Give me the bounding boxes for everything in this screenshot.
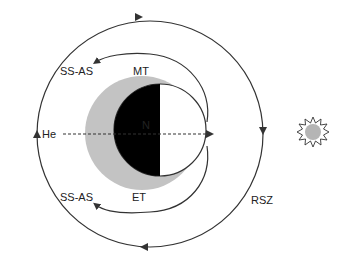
label-ss-as-bottom: SS-AS	[60, 191, 93, 203]
arrow-top-right-icon	[135, 13, 143, 21]
label-et: ET	[132, 191, 146, 203]
arrow-bottom-left-icon	[140, 243, 148, 251]
arrow-right-down-icon	[259, 127, 267, 135]
earth-disc	[114, 84, 206, 176]
label-ss-as-top: SS-AS	[60, 65, 93, 77]
axis-arrow-icon	[206, 130, 214, 138]
arrow-left-up-icon	[33, 130, 41, 138]
label-mt: MT	[133, 65, 149, 77]
label-rsz: RSZ	[251, 194, 273, 206]
label-n: N	[142, 119, 150, 131]
ionosphere-diagram: SS-AS MT He N SS-AS ET RSZ	[0, 0, 343, 263]
sun-icon	[297, 117, 329, 147]
label-he: He	[42, 128, 56, 140]
